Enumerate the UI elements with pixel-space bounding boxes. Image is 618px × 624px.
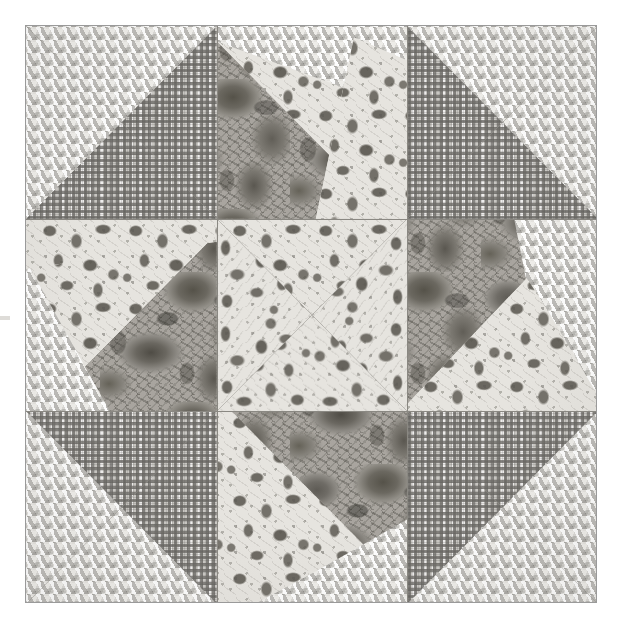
block-cell-bottom-right — [407, 411, 597, 603]
seam-vertical-right — [407, 26, 408, 602]
block-cell-bottom-left — [26, 411, 217, 603]
seam-vertical-left — [217, 26, 218, 602]
quilt-block — [25, 25, 597, 603]
block-cell-bottom-center — [217, 411, 408, 603]
seam-horizontal-bottom — [26, 411, 596, 412]
block-cell-middle-right — [407, 219, 597, 412]
block-cell-middle-left — [26, 219, 217, 412]
block-cell-top-left — [26, 26, 217, 219]
block-cell-top-right — [407, 26, 597, 219]
scan-edge-artifact — [0, 316, 10, 320]
block-cell-center — [217, 219, 408, 412]
screenshot-canvas — [0, 0, 618, 624]
seam-horizontal-top — [26, 219, 596, 220]
block-cell-top-center — [217, 26, 408, 219]
